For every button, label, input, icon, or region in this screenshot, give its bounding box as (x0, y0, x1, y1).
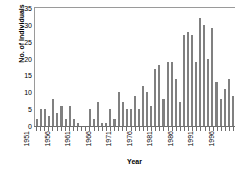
x-axis-tick-label-text: 1966 (84, 131, 93, 159)
y-axis-tick-labels: 05101520253035 (16, 0, 32, 130)
x-axis-tick-label-text: 1951 (22, 131, 31, 159)
bar-series (35, 8, 235, 126)
x-axis-tick-label-text: 1971 (104, 131, 113, 159)
y-axis-tick-label: 25 (16, 38, 32, 45)
x-axis-tick-label-text: 1976 (125, 131, 134, 159)
x-axis-tick-label: 1996 (207, 131, 235, 159)
x-axis-tick-label-text: 1981 (145, 131, 154, 159)
bar (231, 96, 235, 126)
y-axis-tick-label: 20 (16, 55, 32, 62)
x-axis-title: Year (34, 158, 235, 165)
bar-chart: No. of Individuals 05101520253035 195119… (0, 0, 246, 172)
x-axis-tick-labels: 1951195619611966197119761981198619911996 (34, 131, 235, 159)
y-axis-tick-label: 30 (16, 21, 32, 28)
plot-area (34, 7, 235, 126)
x-axis-tick-label-text: 1996 (207, 131, 216, 159)
x-axis-tick-label-text: 1961 (63, 131, 72, 159)
bar-slot (231, 8, 235, 126)
y-axis-tick-label: 15 (16, 72, 32, 79)
y-axis-tick-label: 10 (16, 89, 32, 96)
y-axis-tick-label: 5 (16, 106, 32, 113)
y-axis-tick-label: 35 (16, 5, 32, 12)
x-axis-tick-label-text: 1986 (166, 131, 175, 159)
x-axis-tick-label-text: 1991 (186, 131, 195, 159)
x-axis-tick-label-text: 1956 (43, 131, 52, 159)
y-axis-tick-label: 0 (16, 123, 32, 130)
